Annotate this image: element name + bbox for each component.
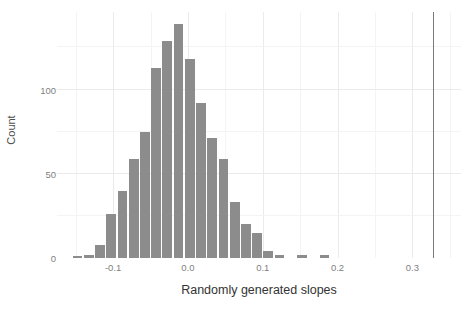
gridline-major-horizontal xyxy=(57,173,461,174)
gridline-minor-vertical xyxy=(375,12,376,258)
histogram-bar xyxy=(95,245,105,258)
x-axis-tick-label: -0.1 xyxy=(105,262,121,273)
x-axis-tick-label: 0.3 xyxy=(406,262,419,273)
y-axis-tick-label: 0 xyxy=(22,253,56,264)
x-axis-tick-label: 0.2 xyxy=(331,262,344,273)
histogram-bar xyxy=(84,255,94,258)
histogram-bar xyxy=(252,233,262,258)
histogram-bar xyxy=(140,132,150,258)
gridline-minor-vertical xyxy=(76,12,77,258)
plot-panel xyxy=(57,12,461,258)
x-axis-tick-labels: -0.10.00.10.20.3 xyxy=(57,262,461,278)
x-axis-tick-label: 0.1 xyxy=(256,262,269,273)
gridline-minor-vertical xyxy=(450,12,451,258)
histogram-bar xyxy=(185,59,195,258)
gridline-major-vertical xyxy=(263,12,264,258)
y-axis-title-text: Count xyxy=(5,115,17,144)
y-axis-tick-labels: 050100 xyxy=(18,0,56,310)
histogram-bar xyxy=(219,159,229,258)
gridline-minor-horizontal xyxy=(57,46,461,47)
histogram-bar xyxy=(162,41,172,258)
histogram-bar xyxy=(118,191,128,258)
histogram-bar xyxy=(106,214,116,258)
observed-slope-reference-line xyxy=(433,12,434,258)
histogram-figure: Count 050100 -0.10.00.10.20.3 Randomly g… xyxy=(0,0,466,310)
histogram-bar xyxy=(151,68,161,258)
histogram-bar xyxy=(196,103,206,258)
y-axis-tick-label: 50 xyxy=(22,168,56,179)
histogram-bar xyxy=(320,255,330,258)
histogram-bar xyxy=(275,255,285,258)
histogram-bar xyxy=(207,138,217,258)
x-axis-tick-label: 0.0 xyxy=(181,262,194,273)
x-axis-title: Randomly generated slopes xyxy=(57,283,461,297)
histogram-bar xyxy=(73,256,83,258)
gridline-minor-vertical xyxy=(300,12,301,258)
histogram-bar xyxy=(230,202,240,258)
gridline-major-vertical xyxy=(338,12,339,258)
y-axis-tick-label: 100 xyxy=(22,84,56,95)
histogram-bar xyxy=(297,255,307,258)
histogram-bar xyxy=(174,24,184,258)
gridline-minor-horizontal xyxy=(57,131,461,132)
gridline-major-horizontal xyxy=(57,89,461,90)
histogram-bar xyxy=(241,224,251,258)
histogram-bar xyxy=(263,251,273,258)
gridline-major-vertical xyxy=(412,12,413,258)
histogram-bar xyxy=(129,159,139,258)
